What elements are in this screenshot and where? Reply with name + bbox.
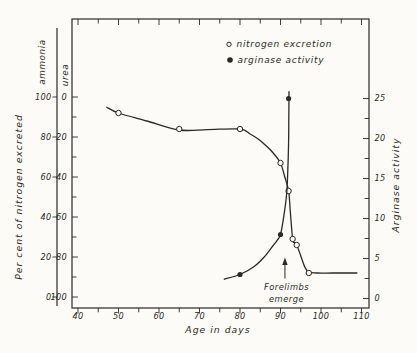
x-axis-title: Age in days	[184, 324, 250, 335]
arginase-tick-label: 0	[375, 293, 381, 303]
plot-frame	[72, 19, 369, 308]
x-axis-tick-label: 100	[313, 311, 330, 321]
x-axis-tick-label: 40	[72, 311, 83, 321]
ammonia-tick-label: 0	[46, 292, 52, 302]
filled-circle-data-point	[286, 96, 291, 101]
open-circle-data-point	[278, 160, 283, 165]
x-axis-tick-label: 70	[194, 311, 205, 321]
open-circle-data-point	[306, 270, 311, 275]
filled-circle-data-point	[237, 272, 242, 277]
curves-layer	[106, 91, 357, 279]
ammonia-tick-label: 20	[40, 252, 51, 262]
forelimbs-arrow-head	[282, 258, 287, 266]
x-axis-tick-label: 90	[275, 311, 286, 321]
curve-nitrogen-excretion	[106, 107, 357, 273]
urea-tick-label: 60	[56, 212, 67, 222]
arginase-tick-label: 20	[375, 133, 386, 143]
axes-layer: 4050607080901001100204060801001008060402…	[35, 19, 386, 321]
open-circle-data-point	[237, 126, 242, 131]
open-circle-data-point	[290, 236, 295, 241]
open-circle-data-point	[294, 242, 299, 247]
legend-open-circle-icon	[227, 42, 231, 46]
ammonia-tick-label: 80	[40, 132, 51, 142]
curve-arginase-activity	[224, 91, 289, 279]
arginase-tick-label: 15	[375, 173, 386, 183]
figure-container: 4050607080901001100204060801001008060402…	[0, 0, 417, 353]
y-right-axis-title: Arginase activity	[390, 137, 401, 233]
urea-scale-label: urea	[60, 64, 70, 86]
x-axis-tick-label: 110	[353, 311, 370, 321]
urea-tick-label: 40	[56, 172, 67, 182]
ammonia-tick-label: 40	[40, 212, 51, 222]
legend-label-nitrogen-excretion: nitrogen excretion	[237, 39, 333, 49]
annotation-forelimbs-line2: emerge	[269, 294, 304, 304]
chart-canvas: 4050607080901001100204060801001008060402…	[0, 0, 417, 353]
urea-tick-label: 80	[56, 252, 67, 262]
arginase-tick-label: 5	[375, 253, 381, 263]
text-layer: Per cent of nitrogen excreted ammonia ur…	[13, 39, 401, 335]
urea-tick-label: 0	[61, 92, 67, 102]
legend-label-arginase-activity: arginase activity	[238, 55, 325, 65]
open-circle-data-point	[177, 126, 182, 131]
legend-filled-circle-icon	[227, 57, 233, 63]
ammonia-tick-label: 60	[40, 172, 51, 182]
y-left-axis-title: Per cent of nitrogen excreted	[13, 114, 24, 280]
annotation-arrow-layer	[282, 258, 287, 279]
open-circle-data-point	[116, 110, 121, 115]
x-axis-tick-label: 80	[234, 311, 245, 321]
x-axis-tick-label: 60	[153, 311, 164, 321]
ammonia-tick-label: 100	[35, 92, 52, 102]
annotation-forelimbs-line1: Forelimbs	[264, 282, 309, 292]
arginase-tick-label: 10	[375, 213, 386, 223]
filled-circle-data-point	[278, 232, 283, 237]
urea-tick-label: 20	[56, 132, 67, 142]
ammonia-scale-label: ammonia	[37, 39, 47, 85]
arginase-tick-label: 25	[375, 93, 386, 103]
x-axis-tick-label: 50	[113, 311, 124, 321]
legend: nitrogen excretion arginase activity	[227, 39, 332, 65]
